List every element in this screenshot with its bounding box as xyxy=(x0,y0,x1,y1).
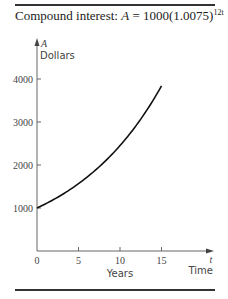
x-axis-label: Years xyxy=(106,268,133,279)
x-tick-label: 15 xyxy=(157,255,167,266)
y-tick-label: 1000 xyxy=(13,203,33,214)
x-var-label: t xyxy=(210,254,213,265)
y-tick-label: 3000 xyxy=(13,117,33,128)
x-ticks: 0 5 10 15 xyxy=(35,247,167,266)
x-tick-label: 0 xyxy=(35,255,40,266)
y-tick-label: 4000 xyxy=(13,74,33,85)
y-var-label: A xyxy=(40,38,48,49)
x-axis-arrow-icon xyxy=(206,249,214,254)
chart-svg: 1000 2000 3000 4000 0 5 10 15 A Dollars … xyxy=(0,0,228,299)
y-axis-arrow-icon xyxy=(35,38,40,46)
y-axis-label: Dollars xyxy=(40,50,75,61)
x-tick-label: 5 xyxy=(76,255,81,266)
y-tick-label: 2000 xyxy=(13,160,33,171)
x-end-label: Time xyxy=(188,265,213,276)
x-tick-label: 10 xyxy=(115,255,125,266)
bottom-rule xyxy=(15,289,215,291)
data-line xyxy=(37,86,162,208)
